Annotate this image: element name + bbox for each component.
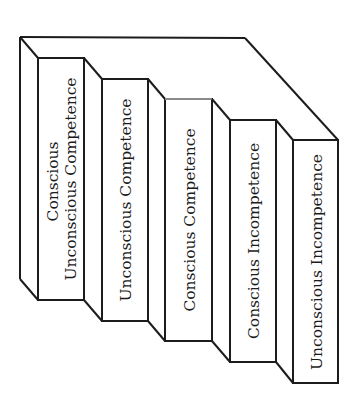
staircase-diagram: Conscious Unconscious Competence Unconsc… xyxy=(0,0,357,419)
step-4: Conscious Incompetence xyxy=(230,120,293,383)
step-5-label: Unconscious Incompetence xyxy=(308,154,326,370)
step-2-label: Unconscious Competence xyxy=(117,98,135,301)
step-1: Conscious Unconscious Competence xyxy=(38,58,102,321)
step-5: Unconscious Incompetence xyxy=(293,140,338,383)
step-3-label: Conscious Competence xyxy=(181,128,199,311)
step-4-label: Conscious Incompetence xyxy=(245,143,263,339)
step-2: Unconscious Competence xyxy=(102,79,165,341)
step-3: Conscious Competence xyxy=(165,99,230,362)
